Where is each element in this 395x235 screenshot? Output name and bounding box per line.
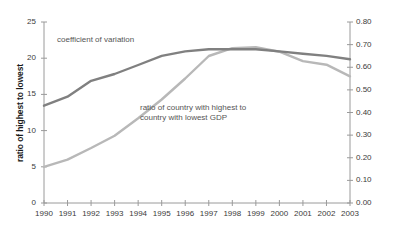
left-tick-label: 10	[14, 126, 36, 135]
right-tick-label: 0.40	[356, 108, 382, 117]
left-tick-label: 15	[14, 89, 36, 98]
annotation-ratio-line1: ratio of country with highest to	[140, 103, 246, 113]
right-tick-label: 0.80	[356, 17, 382, 26]
right-tick-label: 0.00	[356, 198, 382, 207]
left-tick-label: 25	[14, 17, 36, 26]
right-tick-label: 0.20	[356, 153, 382, 162]
left-tick-label: 0	[14, 198, 36, 207]
annotation-coefficient-of-variation: coefficient of variation	[57, 35, 134, 45]
series-line-coefficient-of-variation	[44, 49, 350, 105]
right-tick-label: 0.30	[356, 130, 382, 139]
left-tick-label: 5	[14, 162, 36, 171]
left-tick-label: 20	[14, 53, 36, 62]
right-tick-label: 0.60	[356, 62, 382, 71]
x-tick-label: 2003	[335, 209, 365, 218]
right-tick-label: 0.70	[356, 40, 382, 49]
chart-container: ratio of highest to lowest coefficient o…	[0, 0, 395, 235]
right-tick-label: 0.10	[356, 175, 382, 184]
right-tick-label: 0.50	[356, 85, 382, 94]
annotation-ratio-line2: country with lowest GDP	[140, 113, 227, 123]
